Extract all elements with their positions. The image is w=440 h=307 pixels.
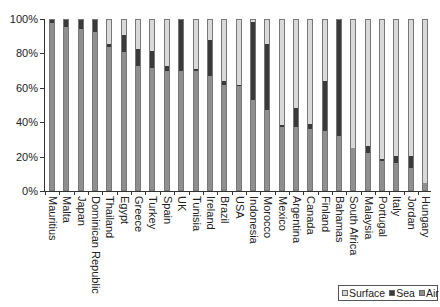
- x-tick-mark: [217, 191, 218, 195]
- segment-sea: [64, 20, 68, 27]
- y-tick-mark: [40, 19, 44, 20]
- segment-surface: [222, 20, 226, 81]
- segment-surface: [394, 20, 398, 156]
- segment-air: [222, 85, 226, 190]
- bar-tunisia: [193, 19, 199, 191]
- legend-label: Sea: [396, 287, 415, 299]
- segment-air: [107, 47, 111, 190]
- x-tick-label: Mauritius: [47, 196, 58, 241]
- bar-morocco: [264, 19, 270, 191]
- segment-sea: [308, 124, 312, 129]
- y-tick-label: 20%: [0, 151, 38, 163]
- bar-portugal: [379, 19, 385, 191]
- y-tick-label: 60%: [0, 82, 38, 94]
- x-tick-mark: [45, 191, 46, 195]
- segment-sea: [194, 69, 198, 71]
- x-tick-mark: [303, 191, 304, 195]
- x-tick-label: Dominican Republic: [90, 196, 101, 294]
- x-tick-mark: [88, 191, 89, 195]
- segment-air: [308, 129, 312, 190]
- segment-air: [380, 161, 384, 190]
- surface-swatch-icon: [342, 290, 348, 296]
- segment-sea: [122, 35, 126, 52]
- segment-air: [179, 71, 183, 190]
- segment-surface: [107, 20, 111, 44]
- bar-italy: [393, 19, 399, 191]
- x-tick-label: Jordan: [406, 196, 417, 230]
- segment-sea: [337, 20, 341, 136]
- x-tick-mark: [289, 191, 290, 195]
- bar-egypt: [121, 19, 127, 191]
- segment-air: [64, 27, 68, 190]
- segment-sea: [165, 66, 169, 71]
- x-tick-label: Greece: [133, 196, 144, 232]
- segment-surface: [308, 20, 312, 124]
- y-tick-mark: [40, 53, 44, 54]
- bar-hungary: [422, 19, 428, 191]
- segment-air: [423, 183, 427, 190]
- x-tick-label: South Africa: [348, 196, 359, 255]
- x-tick-mark: [404, 191, 405, 195]
- segment-air: [337, 136, 341, 190]
- x-tick-label: Italy: [391, 196, 402, 216]
- segment-surface: [237, 20, 241, 85]
- x-tick-label: USA: [234, 196, 245, 219]
- segment-sea: [208, 40, 212, 76]
- x-tick-mark: [102, 191, 103, 195]
- legend-label: Surface: [349, 287, 385, 299]
- x-tick-label: Malta: [61, 196, 72, 223]
- segment-surface: [409, 20, 413, 156]
- bar-dominican-republic: [92, 19, 98, 191]
- x-tick-mark: [145, 191, 146, 195]
- x-tick-label: Turkey: [147, 196, 158, 229]
- x-tick-mark: [74, 191, 75, 195]
- segment-surface: [351, 20, 355, 148]
- segment-air: [351, 148, 355, 191]
- x-tick-mark: [275, 191, 276, 195]
- bar-finland: [322, 19, 328, 191]
- segment-surface: [136, 20, 140, 49]
- segment-air: [165, 71, 169, 190]
- air-swatch-icon: [419, 290, 425, 296]
- bar-usa: [236, 19, 242, 191]
- bar-thailand: [106, 19, 112, 191]
- x-tick-label: Canada: [305, 196, 316, 235]
- x-tick-label: Indonesia: [248, 196, 259, 244]
- segment-air: [409, 168, 413, 190]
- segment-air: [79, 29, 83, 191]
- segment-sea: [136, 49, 140, 66]
- segment-air: [122, 52, 126, 190]
- bar-canada: [307, 19, 313, 191]
- y-tick-label: 100%: [0, 13, 38, 25]
- segment-sea: [107, 44, 111, 47]
- bar-spain: [164, 19, 170, 191]
- x-tick-mark: [389, 191, 390, 195]
- segment-sea: [380, 159, 384, 161]
- segment-surface: [366, 20, 370, 146]
- segment-sea: [251, 22, 255, 100]
- segment-sea: [366, 146, 370, 153]
- x-tick-label: Tunisia: [191, 196, 202, 231]
- x-tick-label: Thailand: [104, 196, 115, 238]
- segment-surface: [165, 20, 169, 66]
- segment-air: [366, 153, 370, 190]
- y-tick-mark: [40, 191, 44, 192]
- bar-jordan: [408, 19, 414, 191]
- segment-sea: [323, 81, 327, 130]
- bar-malaysia: [365, 19, 371, 191]
- segment-air: [394, 163, 398, 190]
- segment-sea: [265, 44, 269, 110]
- x-tick-label: Finland: [320, 196, 331, 232]
- x-tick-mark: [318, 191, 319, 195]
- legend-item-sea: Sea: [389, 287, 415, 299]
- segment-surface: [208, 20, 212, 40]
- x-tick-mark: [361, 191, 362, 195]
- bar-uk: [178, 19, 184, 191]
- x-tick-label: Mexico: [277, 196, 288, 231]
- segment-surface: [150, 20, 154, 51]
- bar-ireland: [207, 19, 213, 191]
- x-tick-mark: [131, 191, 132, 195]
- y-tick-mark: [40, 122, 44, 123]
- x-tick-label: Argentina: [291, 196, 302, 243]
- legend: Surface Sea Air: [338, 285, 438, 301]
